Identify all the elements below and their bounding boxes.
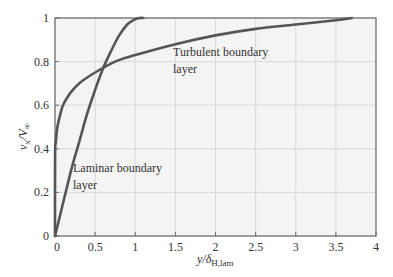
x-tick-label: 3 — [293, 240, 299, 254]
x-tick-label: 2 — [213, 240, 219, 254]
y-tick-label: 1 — [43, 11, 49, 25]
y-tick-label: 0.8 — [34, 55, 49, 69]
x-tick-label: 3.5 — [328, 240, 343, 254]
annotation-laminar-line1: Laminar boundary — [73, 161, 162, 175]
y-axis-label: vx/V∞ — [16, 123, 32, 150]
x-tick-label: 1.5 — [168, 240, 183, 254]
y-tick-label: 0.6 — [34, 98, 49, 112]
annotation-turbulent-line2: layer — [173, 62, 197, 76]
annotation-laminar-line2: layer — [73, 178, 97, 192]
y-tick-label: 0 — [43, 229, 49, 243]
x-tick-label: 0.5 — [88, 240, 103, 254]
y-tick-label: 0.2 — [34, 185, 49, 199]
y-tick-label: 0.4 — [34, 142, 49, 156]
x-tick-label: 4 — [373, 240, 379, 254]
annotation-turbulent-line1: Turbulent boundary — [173, 45, 268, 59]
x-tick-label: 2.5 — [248, 240, 263, 254]
x-tick-label: 0 — [54, 240, 60, 254]
chart: 00.511.522.533.54 00.20.40.60.81 Turbule… — [0, 0, 393, 277]
x-tick-label: 1 — [132, 240, 138, 254]
x-axis-label: y/δH,lam — [196, 252, 234, 268]
